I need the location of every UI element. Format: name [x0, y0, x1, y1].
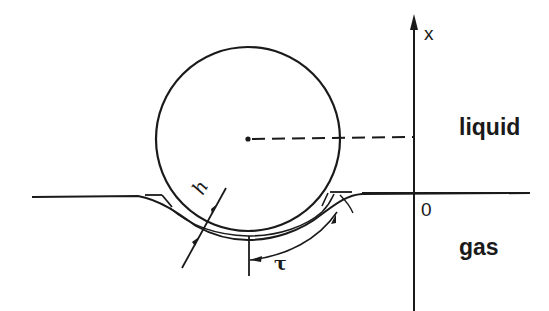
center-height-dashed-line: [252, 137, 414, 139]
left-meniscus-detail: [145, 195, 172, 207]
film-thickness-dimension: [182, 188, 226, 268]
origin-label: 0: [421, 200, 432, 219]
axis-x-label: x: [424, 24, 434, 43]
liquid-region-label: liquid: [459, 116, 520, 139]
arc-coordinate-symbol: τ: [274, 254, 287, 273]
arc-coordinate-dimension: [249, 212, 337, 276]
axis-arrow-icon: [410, 14, 418, 30]
vertical-axis: [410, 14, 418, 311]
sphere-center-dot: [245, 136, 250, 141]
gas-region-label: gas: [459, 236, 499, 259]
